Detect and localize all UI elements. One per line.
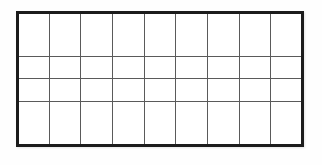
grid-cell[interactable] [239,101,271,145]
grid-cell[interactable] [271,79,303,101]
grid-cell[interactable] [176,13,208,57]
grid-cell[interactable] [18,101,50,145]
grid-cell[interactable] [207,101,239,145]
grid-body [18,13,303,146]
grid-cell[interactable] [112,101,144,145]
grid-cell[interactable] [81,79,113,101]
grid-cell[interactable] [207,57,239,79]
grid-cell[interactable] [18,13,50,57]
grid-row [18,101,303,145]
grid-cell[interactable] [207,79,239,101]
grid-row [18,79,303,101]
grid-cell[interactable] [81,13,113,57]
grid-row [18,13,303,57]
canvas [0,0,322,165]
grid-cell[interactable] [144,13,176,57]
blank-grid[interactable] [16,11,304,147]
grid-cell[interactable] [49,79,81,101]
grid-cell[interactable] [239,13,271,57]
grid-cell[interactable] [144,101,176,145]
grid-cell[interactable] [176,101,208,145]
grid-cell[interactable] [112,57,144,79]
grid-cell[interactable] [112,79,144,101]
grid-cell[interactable] [49,13,81,57]
grid-cell[interactable] [18,57,50,79]
grid-cell[interactable] [18,79,50,101]
grid-cell[interactable] [112,13,144,57]
grid-cell[interactable] [271,101,303,145]
grid-cell[interactable] [239,57,271,79]
grid-cell[interactable] [49,57,81,79]
grid-row [18,57,303,79]
grid-cell[interactable] [239,79,271,101]
grid-cell[interactable] [271,57,303,79]
grid-cell[interactable] [176,57,208,79]
grid-cell[interactable] [81,101,113,145]
grid-cell[interactable] [144,57,176,79]
grid-cell[interactable] [81,57,113,79]
grid-cell[interactable] [144,79,176,101]
grid-cell[interactable] [207,13,239,57]
grid-cell[interactable] [49,101,81,145]
grid-cell[interactable] [271,13,303,57]
grid-cell[interactable] [176,79,208,101]
